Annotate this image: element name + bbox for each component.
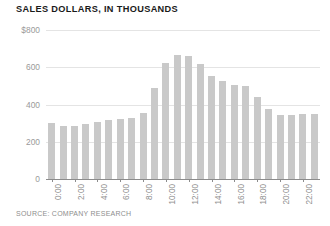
bar <box>185 56 192 179</box>
bar <box>105 120 112 179</box>
x-tick <box>75 179 76 182</box>
x-tick-label: 0:00 <box>55 184 63 200</box>
bar <box>197 64 204 179</box>
bar <box>299 114 306 179</box>
bar <box>277 115 284 179</box>
bar <box>231 85 238 179</box>
x-tick <box>166 179 167 182</box>
x-tick-label: 12:00 <box>192 184 200 205</box>
y-tick-label-0: 0 <box>35 175 40 183</box>
x-tick-label: 14:00 <box>215 184 223 205</box>
x-tick <box>143 179 144 182</box>
bar <box>242 86 249 179</box>
y-axis: $8006004002000 <box>0 30 46 179</box>
bar <box>219 81 226 179</box>
bar <box>311 114 318 179</box>
x-tick-label: 20:00 <box>283 184 291 205</box>
x-tick <box>212 179 213 182</box>
y-tick-label-400: 400 <box>26 100 40 108</box>
bar <box>151 88 158 179</box>
bar-series <box>46 30 320 179</box>
x-tick <box>280 179 281 182</box>
plot-area <box>46 30 320 179</box>
sales-dollars-bar-chart: SALES DOLLARS, IN THOUSANDS $80060040020… <box>0 0 330 226</box>
bar <box>254 97 261 179</box>
x-tick-label: 2:00 <box>78 184 86 200</box>
bar <box>288 115 295 179</box>
bar <box>162 63 169 179</box>
bar <box>94 122 101 179</box>
chart-title: SALES DOLLARS, IN THOUSANDS <box>16 4 178 14</box>
x-tick-label: 6:00 <box>123 184 131 200</box>
bar <box>128 118 135 179</box>
x-tick <box>97 179 98 182</box>
x-tick <box>257 179 258 182</box>
y-tick-label-600: 600 <box>26 63 40 71</box>
bar <box>174 55 181 179</box>
x-tick-label: 22:00 <box>306 184 314 205</box>
bar <box>60 126 67 179</box>
bar <box>117 119 124 179</box>
x-tick <box>120 179 121 182</box>
y-tick-label-200: 200 <box>26 138 40 146</box>
x-tick-label: 8:00 <box>146 184 154 200</box>
bar <box>48 123 55 179</box>
x-tick-label: 16:00 <box>238 184 246 205</box>
x-tick-label: 18:00 <box>260 184 268 205</box>
bar <box>82 124 89 179</box>
bar <box>140 113 147 179</box>
bar <box>208 76 215 179</box>
x-tick-label: 4:00 <box>101 184 109 200</box>
x-tick <box>234 179 235 182</box>
x-tick <box>303 179 304 182</box>
bar <box>71 126 78 179</box>
x-tick <box>52 179 53 182</box>
source-note: SOURCE: COMPANY RESEARCH <box>16 210 131 217</box>
x-tick-label: 10:00 <box>169 184 177 205</box>
y-tick-label-800: $800 <box>21 26 40 34</box>
bar <box>265 109 272 179</box>
x-tick <box>189 179 190 182</box>
